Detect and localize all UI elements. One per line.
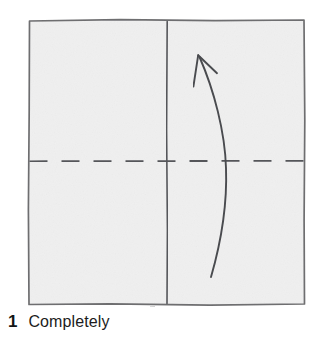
fold-diagram — [0, 0, 321, 338]
vertical-center-line — [167, 22, 168, 304]
step-caption: 1 Completely — [8, 312, 110, 332]
horizontal-fold-line — [30, 161, 305, 162]
step-number: 1 — [8, 312, 17, 332]
origami-figure: 1 Completely — [0, 0, 321, 338]
caption-text: Completely — [28, 313, 109, 331]
